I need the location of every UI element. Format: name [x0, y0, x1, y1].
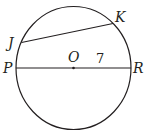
- radius-measure: 7: [96, 51, 104, 66]
- label-k: K: [114, 9, 127, 25]
- label-p: P: [2, 60, 13, 76]
- circle-diagram: J K P R O 7: [0, 0, 146, 132]
- diagram-canvas: J K P R O 7: [0, 0, 146, 132]
- chord-jk: [22, 24, 114, 43]
- label-o: O: [68, 49, 80, 65]
- center-point: [72, 67, 75, 70]
- label-r: R: [132, 60, 144, 76]
- label-j: J: [5, 35, 15, 51]
